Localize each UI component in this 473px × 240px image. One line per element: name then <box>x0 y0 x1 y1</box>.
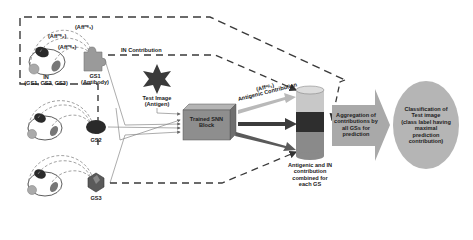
in-contribution-label: IN Contribution <box>121 47 162 53</box>
gs2-ellipse-icon <box>86 120 106 134</box>
gs3-dashed-arrow <box>110 152 296 183</box>
snn-input-lines <box>105 60 180 183</box>
test-image-label: Test Image (Antigen) <box>139 95 175 108</box>
aggregation-label: Aggregation of contributions by all GSs … <box>332 112 380 138</box>
classification-label: Classification of Test image (class labe… <box>396 106 456 144</box>
in-node-label: IN (GS1, GS2, GS3) <box>23 74 69 87</box>
contribution-cylinder <box>296 86 324 160</box>
gs3-label: GS3 <box>86 195 106 201</box>
gs2-label: GS2 <box>86 137 106 143</box>
cylinder-caption: Antigenic and IN contribution combined f… <box>284 162 336 188</box>
test-image-star-icon <box>143 64 171 94</box>
affinity-label-2: (Affⁿᵉ₂) <box>48 33 66 39</box>
affinity-label-3: (Affⁿᵉ₃) <box>58 44 76 50</box>
gs1-label: GS1 (Antibody) <box>80 73 110 86</box>
snn-block-label: Trained SNN Block <box>183 116 230 129</box>
in-node-icon-gs2 <box>28 112 63 140</box>
gs3-hexagon-icon <box>88 173 104 192</box>
affinity-label-1: (Affⁿᵉ₁) <box>75 24 93 30</box>
snn-output-arrows <box>235 93 297 151</box>
in-node-icon-gs3 <box>28 168 63 196</box>
